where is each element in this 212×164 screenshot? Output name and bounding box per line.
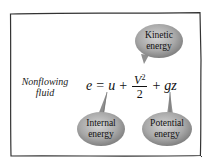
eq-equals: =: [96, 78, 104, 94]
callout-line-1: Potential: [142, 118, 192, 129]
potential-energy-label: Potential energy: [142, 118, 192, 140]
energy-equation: e = u + V2 2 + gz: [86, 73, 177, 99]
callout-line-1: Internal: [77, 118, 125, 129]
callout-line-2: energy: [77, 129, 125, 140]
eq-plus-1: +: [119, 78, 127, 94]
fraction-denominator: 2: [137, 87, 143, 100]
kinetic-energy-label: Kinetic energy: [136, 30, 182, 52]
eq-plus-2: +: [152, 78, 160, 94]
eq-internal-u: u: [108, 78, 115, 94]
nonflowing-fluid-label: Nonflowing fluid: [18, 76, 72, 98]
internal-energy-label: Internal energy: [77, 118, 125, 140]
label-line-1: Nonflowing: [18, 76, 72, 87]
label-line-2: fluid: [18, 87, 72, 98]
eq-lhs-e: e: [86, 78, 92, 94]
callout-line-2: energy: [136, 41, 182, 52]
fraction-numerator: V2: [132, 72, 147, 87]
exponent: 2: [141, 73, 145, 82]
eq-kinetic-fraction: V2 2: [132, 72, 147, 100]
callout-line-2: energy: [142, 129, 192, 140]
callout-line-1: Kinetic: [136, 30, 182, 41]
eq-potential-gz: gz: [164, 78, 176, 94]
height-symbol: z: [171, 78, 176, 93]
